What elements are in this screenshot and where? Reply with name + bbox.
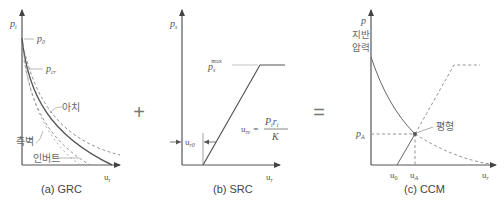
panel-c-ccm: p 지반 압력 pA 평형 u0 uA ur (c) CCM [352,10,496,195]
equilibrium-label: 평형 [436,121,454,132]
panel-c-y-label-line2: 압력 [352,42,370,53]
ccm-ground-curve-dashed [415,134,490,164]
panel-b-y-label: ps [169,18,178,30]
panel-a-caption: (a) GRC [41,183,82,195]
svg-text:ure=: ure= [241,124,258,135]
panel-a-x-label: ur [104,172,111,183]
panel-c-caption: (c) CCM [404,183,445,195]
svg-text:K: K [271,131,280,142]
src-curve [203,65,285,165]
panel-a-y-label: pi [9,18,17,30]
panel-c-y-label: p [360,15,366,26]
uA-label: uA [410,170,419,181]
ccm-ground-curve-solid [371,57,415,134]
svg-text:Piri: Piri [264,116,279,128]
equals-operator: = [313,101,325,123]
arch-label: 아치 [62,102,80,113]
grc-curve-invert [24,55,90,165]
grc-curve-arch [23,45,120,155]
ccm-support-line-solid [397,134,415,165]
arch-leader [50,107,62,113]
invert-label: 인버트 [33,153,60,164]
panel-b-src: ps psmax ur0 ure= Piri K ur (b) SRC [169,10,288,195]
ps-max-label: psmax [207,58,222,73]
panel-b-x-label: ur [266,172,274,183]
pA-label: pA [355,128,365,140]
ure-formula: ure= Piri K [241,116,288,142]
panel-c-y-label-line1: 지반 [352,29,370,40]
ccm-diagram: pi p0 pcr 아치 측벽 인버트 ur (a) GRC + ps psma… [0,0,504,209]
plus-operator: + [133,101,145,123]
ur0-label: ur0 [185,137,195,148]
p0-label: p0 [36,33,45,45]
sidewall-leader [36,131,43,143]
panel-a-grc: pi p0 pcr 아치 측벽 인버트 ur (a) GRC [9,10,120,195]
sidewall-label: 측벽 [16,136,34,147]
panel-c-x-label: ur [482,170,490,181]
panel-b-caption: (b) SRC [213,183,253,195]
pcr-label: pcr [45,63,57,75]
u0-label: u0 [390,170,398,181]
